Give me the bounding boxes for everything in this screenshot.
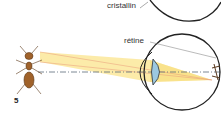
- lens-label: cristallin: [107, 1, 136, 10]
- upper-eye-outline: [150, 0, 221, 21]
- eye-diagram: [0, 0, 221, 116]
- lens-pointer-line: [140, 2, 148, 8]
- retina-label: rétine: [124, 36, 144, 45]
- ant-icon: [16, 46, 42, 94]
- retina-pointer-line: [150, 42, 216, 58]
- figure-number: 5: [14, 96, 18, 105]
